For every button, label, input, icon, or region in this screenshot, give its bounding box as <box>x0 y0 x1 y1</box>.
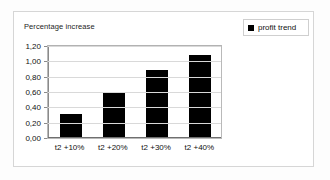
legend-marker-icon <box>248 25 254 31</box>
chart-figure: Percentage increase profit trend 0,000,2… <box>0 0 330 180</box>
x-axis-tick-label: t2 +40% <box>185 143 215 152</box>
legend-item-label: profit trend <box>258 23 296 32</box>
y-axis-tick-label: 0,80 <box>11 72 41 81</box>
y-axis-tick-mark <box>44 107 47 108</box>
plot-area <box>47 45 222 139</box>
gridline <box>48 123 221 124</box>
y-axis-tick-mark <box>44 138 47 139</box>
x-axis-tick-label: t2 +30% <box>141 143 171 152</box>
gridline <box>48 77 221 78</box>
y-axis-tick-mark <box>44 46 47 47</box>
y-axis-tick-label: 0,00 <box>11 134 41 143</box>
y-axis-tick-label: 1,00 <box>11 57 41 66</box>
y-axis-tick-label: 1,20 <box>11 42 41 51</box>
y-axis-tick-label: 0,40 <box>11 103 41 112</box>
y-axis-tick-label: 0,20 <box>11 118 41 127</box>
y-axis-tick-mark <box>44 61 47 62</box>
y-axis-tick-label: 0,60 <box>11 88 41 97</box>
y-axis-tick-mark <box>44 92 47 93</box>
gridline <box>48 46 221 47</box>
gridline <box>48 61 221 62</box>
bar <box>146 70 168 137</box>
x-axis-tick-label: t2 +20% <box>98 143 128 152</box>
y-axis-tick-mark <box>44 77 47 78</box>
bar <box>103 93 125 137</box>
chart-title: Percentage increase <box>24 22 95 31</box>
gridline <box>48 107 221 108</box>
bar <box>60 114 82 137</box>
x-axis-tick-label: t2 +10% <box>55 143 85 152</box>
chart-legend: profit trend <box>243 19 309 36</box>
gridline <box>48 92 221 93</box>
y-axis-tick-mark <box>44 123 47 124</box>
bar <box>189 55 211 137</box>
